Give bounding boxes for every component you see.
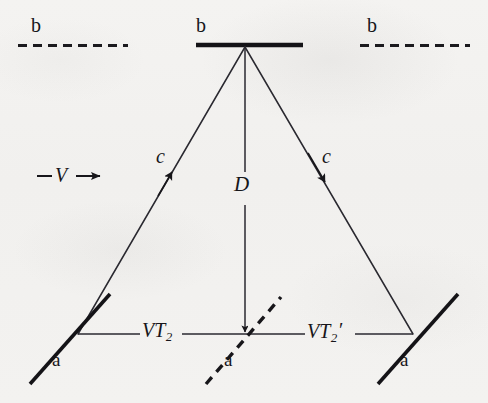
mirror-a-right [378, 294, 458, 384]
speed-of-light-left-label: c [156, 146, 165, 166]
mirror-b-center-label: b [196, 15, 206, 35]
mirror-b-right-label: b [367, 15, 377, 35]
mirror-a-center-label: a [224, 350, 232, 369]
distance-label: D [234, 174, 249, 195]
diagram-canvas [0, 0, 488, 403]
mirror-a-center [206, 297, 281, 384]
physics-figure: b b b c c D V VT2 VT2′ a a a [0, 0, 488, 403]
travel-right-base: VT [307, 320, 330, 342]
ray-upward-left-arrowhead [158, 172, 172, 196]
mirror-a-left [30, 294, 110, 384]
mirror-a-right-label: a [400, 350, 408, 369]
travel-distance-left-label: VT2 [142, 320, 172, 343]
travel-right-prime: ′ [337, 319, 342, 341]
speed-of-light-right-label: c [322, 146, 331, 166]
mirror-b-left-label: b [31, 15, 41, 35]
mirror-a-left-label: a [52, 350, 60, 369]
travel-left-subscript: 2 [165, 329, 172, 344]
velocity-label: V [55, 165, 67, 185]
travel-left-base: VT [142, 319, 165, 341]
travel-distance-right-label: VT2′ [307, 320, 342, 344]
ray-downward-right [245, 47, 413, 334]
